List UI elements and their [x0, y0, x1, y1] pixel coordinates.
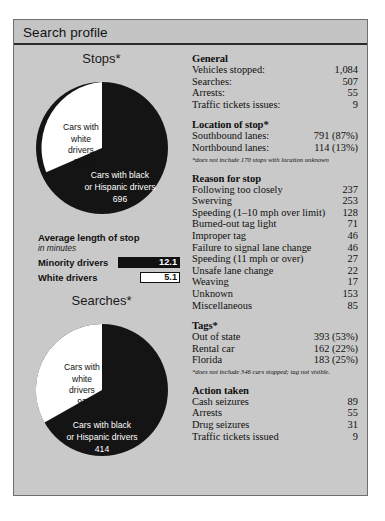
searches-white-label-2: drivers — [69, 385, 95, 395]
location-value-1: 114 (13%) — [314, 142, 358, 154]
table-row: Northbound lanes: 114 (13%) — [192, 142, 358, 154]
table-row: Unknown 153 — [192, 288, 358, 300]
reason-value-8: 17 — [348, 276, 358, 288]
panel-title-bar: Search profile — [14, 20, 367, 45]
bar-value-white: 5.1 — [164, 272, 177, 283]
reason-label-3: Burned-out tag light — [192, 218, 280, 230]
reason-label-5: Failure to signal lane change — [192, 242, 315, 254]
searches-pie-wrap: Cars with white drivers 93 Cars with bla… — [14, 312, 189, 468]
general-value-0: 1,084 — [335, 64, 358, 76]
section-general: General Vehicles stopped: 1,084 Searches… — [192, 53, 358, 110]
tags-label-0: Out of state — [192, 331, 244, 343]
general-value-1: 507 — [342, 76, 358, 88]
table-row: Drug seizures 31 — [192, 419, 358, 431]
tags-label-1: Rental car — [192, 343, 238, 355]
searches-white-label-0: Cars with — [64, 362, 100, 372]
searches-white-value: 93 — [77, 397, 87, 407]
reason-label-2: Speeding (1–10 mph over limit) — [192, 207, 329, 219]
reason-label-1: Swerving — [192, 195, 236, 207]
location-label-0: Southbound lanes: — [192, 130, 273, 142]
table-row: Rental car 162 (22%) — [192, 343, 358, 355]
reason-value-10: 85 — [348, 300, 358, 312]
searches-chart-title: Searches* — [14, 293, 189, 308]
action-value-1: 55 — [348, 407, 358, 419]
table-row: Out of state 393 (53%) — [192, 331, 358, 343]
table-row: Southbound lanes: 791 (87%) — [192, 130, 358, 142]
bar-row-white: White drivers 5.1 — [38, 272, 189, 283]
bar-label-minority: Minority drivers — [38, 257, 118, 268]
table-row: Searches: 507 — [192, 76, 358, 88]
charts-column: Stops* Cars with white drivers 313 Cars … — [14, 45, 189, 495]
table-row: Arrests 55 — [192, 407, 358, 419]
section-tags: Tags* Out of state 393 (53%) Rental car … — [192, 320, 358, 376]
general-value-2: 55 — [348, 87, 358, 99]
table-row: Miscellaneous 85 — [192, 300, 358, 312]
average-length-heading: Average length of stop — [38, 232, 189, 243]
average-length-chart: Average length of stop in minutes Minori… — [38, 232, 189, 283]
bar-label-white: White drivers — [38, 272, 118, 283]
table-row: Improper tag 46 — [192, 230, 358, 242]
stops-white-label-1: white — [69, 134, 90, 144]
average-length-subheading: in minutes — [38, 243, 189, 253]
action-label-0: Cash seizures — [192, 396, 253, 408]
stops-white-value: 313 — [73, 157, 88, 167]
location-value-0: 791 (87%) — [314, 130, 358, 142]
table-row: Weaving 17 — [192, 276, 358, 288]
table-row: Failure to signal lane change 46 — [192, 242, 358, 254]
action-label-1: Arrests — [192, 407, 226, 419]
action-label-3: Traffic tickets issued — [192, 431, 283, 443]
tags-value-2: 183 (25%) — [314, 354, 358, 366]
tags-label-2: Florida — [192, 354, 226, 366]
general-heading: General — [192, 53, 358, 64]
reason-label-4: Improper tag — [192, 230, 250, 242]
location-heading: Location of stop* — [192, 119, 358, 130]
section-reason: Reason for stop Following too closely 23… — [192, 173, 358, 312]
reason-value-4: 46 — [348, 230, 358, 242]
location-label-1: Northbound lanes: — [192, 142, 273, 154]
stops-chart-title: Stops* — [14, 51, 189, 66]
reason-label-7: Unsafe lane change — [192, 265, 277, 277]
table-row: Arrests: 55 — [192, 87, 358, 99]
reason-value-2: 128 — [342, 207, 358, 219]
table-row: Speeding (11 mph or over) 27 — [192, 253, 358, 265]
reason-label-6: Speeding (11 mph or over) — [192, 253, 308, 265]
stops-white-label-0: Cars with — [63, 122, 99, 132]
table-row: Swerving 253 — [192, 195, 358, 207]
search-profile-panel: Search profile Stops* Cars with white dr… — [13, 19, 368, 496]
searches-black-label-0: Cars with black — [72, 420, 131, 430]
stops-white-label-2: drivers — [68, 145, 94, 155]
stops-black-label-1: or Hispanic drivers — [84, 182, 155, 192]
reason-value-7: 22 — [348, 265, 358, 277]
searches-black-label-1: or Hispanic drivers — [66, 432, 137, 442]
searches-pie-chart: Cars with white drivers 93 Cars with bla… — [24, 312, 180, 468]
table-row: Vehicles stopped: 1,084 — [192, 64, 358, 76]
table-row: Speeding (1–10 mph over limit) 128 — [192, 207, 358, 219]
statistics-column: General Vehicles stopped: 1,084 Searches… — [189, 45, 367, 495]
table-row: Traffic tickets issued 9 — [192, 431, 358, 443]
table-row: Following too closely 237 — [192, 184, 358, 196]
action-heading: Action taken — [192, 385, 358, 396]
page-title: Search profile — [23, 25, 108, 40]
general-label-1: Searches: — [192, 76, 236, 88]
section-location: Location of stop* Southbound lanes: 791 … — [192, 119, 358, 163]
stops-black-value: 696 — [112, 194, 127, 204]
general-label-3: Traffic tickets issues: — [192, 99, 284, 111]
tags-heading: Tags* — [192, 320, 358, 331]
table-row: Traffic tickets issues: 9 — [192, 99, 358, 111]
reason-label-0: Following too closely — [192, 184, 287, 196]
bar-row-minority: Minority drivers 12.1 — [38, 257, 189, 268]
general-value-3: 9 — [353, 99, 358, 111]
reason-label-9: Unknown — [192, 288, 237, 300]
action-label-2: Drug seizures — [192, 419, 253, 431]
searches-white-label-1: white — [70, 374, 91, 384]
reason-value-3: 71 — [348, 218, 358, 230]
table-row: Burned-out tag light 71 — [192, 218, 358, 230]
stops-pie-wrap: Cars with white drivers 313 Cars with bl… — [14, 70, 189, 226]
panel-body: Stops* Cars with white drivers 313 Cars … — [14, 45, 367, 495]
table-row: Cash seizures 89 — [192, 396, 358, 408]
bar-track-white: 5.1 — [118, 272, 180, 283]
reason-heading: Reason for stop — [192, 173, 358, 184]
tags-value-1: 162 (22%) — [314, 343, 358, 355]
action-value-3: 9 — [353, 431, 358, 443]
stops-black-label-0: Cars with black — [90, 170, 149, 180]
